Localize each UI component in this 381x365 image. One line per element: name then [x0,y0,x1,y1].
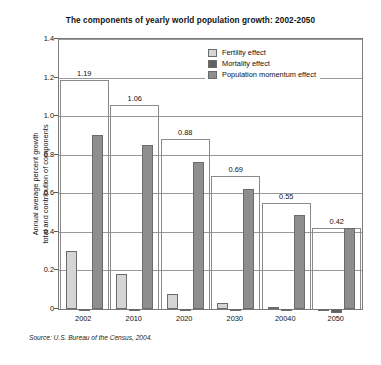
y-tick-label: 1.4 [14,34,54,43]
bar-mortality [129,309,140,311]
total-value-label: 1.19 [77,69,91,78]
bar-momentum [243,189,254,309]
x-tick-label: 2010 [126,314,142,323]
chart-legend: Fertility effectMortality effectPopulati… [205,44,320,83]
legend-item: Population momentum effect [208,69,316,80]
bar-fertility [318,309,329,311]
bar-mortality [281,309,292,311]
legend-item-label: Fertility effect [222,47,266,58]
legend-swatch-fertility-icon [208,49,217,57]
total-value-label: 1.06 [128,94,142,103]
bar-momentum [142,145,153,309]
total-value-label: 0.88 [178,128,192,137]
bar-mortality [230,309,241,311]
x-tick-label: 20040 [275,314,296,323]
total-value-label: 0.42 [330,217,344,226]
bar-mortality [331,309,342,313]
bar-momentum [193,162,204,309]
x-tick-label: 2002 [75,314,91,323]
bar-mortality [79,309,90,311]
x-tick-label: 2050 [328,314,344,323]
y-tick-label: 0 [14,304,54,313]
total-value-label: 0.69 [229,165,243,174]
y-tick-label: 0.8 [14,149,54,158]
bar-fertility [167,294,178,309]
bar-fertility [217,303,228,309]
chart-title: The components of yearly world populatio… [0,16,381,25]
y-tick-label: 0.6 [14,188,54,197]
source-note: Source: U.S. Bureau of the Census, 2004. [29,334,152,341]
x-tick-label: 2020 [176,314,192,323]
chart-figure: The components of yearly world populatio… [0,0,381,365]
bar-mortality [180,309,191,311]
bar-fertility [116,274,127,309]
bar-momentum [92,135,103,309]
gridline [59,39,362,40]
legend-item: Fertility effect [208,47,316,58]
legend-item-label: Mortality effect [222,58,270,69]
legend-item-label: Population momentum effect [222,69,316,80]
legend-swatch-mortality-icon [208,60,217,68]
y-tick-label: 0.2 [14,265,54,274]
y-tick-label: 0.4 [14,226,54,235]
bar-fertility [66,251,77,309]
y-tick-label: 1.0 [14,111,54,120]
legend-item: Mortality effect [208,58,316,69]
legend-swatch-momentum-icon [208,71,217,79]
x-tick-label: 2030 [227,314,243,323]
bar-fertility [268,307,279,309]
bar-momentum [294,215,305,310]
bar-momentum [344,228,355,309]
total-value-label: 0.55 [279,192,293,201]
y-tick-label: 1.2 [14,72,54,81]
